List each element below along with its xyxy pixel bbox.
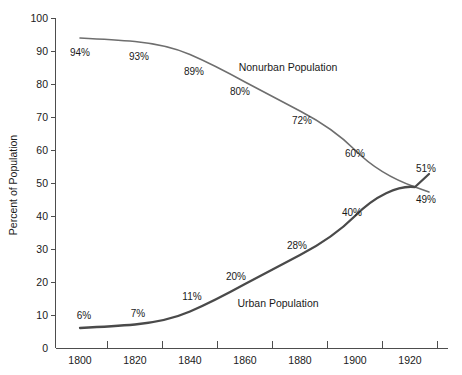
y-tick-70: 70 [36,111,48,123]
x-axis [56,341,449,349]
point-label-72: 72% [292,115,312,126]
point-label-11: 11% [182,291,201,302]
point-label-60: 60% [345,148,365,159]
y-axis [51,18,56,348]
point-label-6: 6% [77,310,92,321]
point-label-7: 7% [131,308,146,319]
point-label-28: 28% [287,240,307,251]
y-tick-10: 10 [36,309,48,321]
y-axis-tick-labels: 100 90 80 70 60 50 40 30 20 10 0 [30,12,48,354]
y-axis-title: Percent of Population [7,135,19,236]
y-tick-60: 60 [36,144,48,156]
y-tick-50: 50 [36,177,48,189]
point-label-89: 89% [184,66,204,77]
x-tick-1880: 1880 [288,354,312,366]
point-label-40: 40% [342,207,362,218]
y-tick-30: 30 [36,243,48,255]
population-line-chart: Percent of Population 100 90 80 70 60 50… [0,0,462,375]
y-tick-80: 80 [36,78,48,90]
point-label-51: 51% [416,163,436,174]
point-label-49: 49% [416,194,436,205]
y-tick-90: 90 [36,45,48,57]
x-tick-1920: 1920 [398,354,422,366]
x-tick-1820: 1820 [123,354,147,366]
x-axis-tick-labels: 1800 1820 1840 1860 1880 1900 1920 [68,354,422,366]
point-label-20: 20% [226,271,246,282]
point-label-93: 93% [129,51,149,62]
y-tick-40: 40 [36,210,48,222]
point-label-94: 94% [70,47,90,58]
x-tick-1800: 1800 [68,354,92,366]
x-tick-1860: 1860 [233,354,257,366]
y-tick-0: 0 [42,342,48,354]
series-annotation-urban: Urban Population [237,297,318,309]
x-tick-1900: 1900 [343,354,367,366]
point-label-80: 80% [230,86,250,97]
chart-container: Percent of Population 100 90 80 70 60 50… [0,0,462,375]
y-tick-100: 100 [30,12,48,24]
x-tick-1840: 1840 [178,354,202,366]
y-tick-20: 20 [36,276,48,288]
series-annotation-nonurban: Nonurban Population [239,61,338,73]
